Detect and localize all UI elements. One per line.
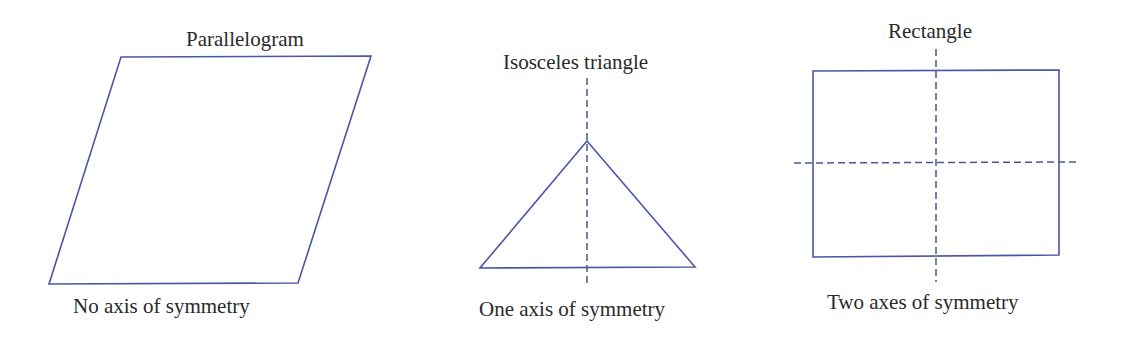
parallelogram-shape bbox=[49, 56, 371, 284]
parallelogram-title: Parallelogram bbox=[186, 27, 304, 51]
symmetry-diagram: Parallelogram No axis of symmetry Isosce… bbox=[0, 0, 1130, 345]
panel-isosceles-triangle: Isosceles triangle One axis of symmetry bbox=[479, 50, 695, 321]
triangle-caption: One axis of symmetry bbox=[479, 297, 666, 321]
panel-rectangle: Rectangle Two axes of symmetry bbox=[794, 19, 1078, 314]
panel-parallelogram: Parallelogram No axis of symmetry bbox=[49, 27, 371, 318]
diagram-svg: Parallelogram No axis of symmetry Isosce… bbox=[0, 0, 1130, 345]
rectangle-title: Rectangle bbox=[888, 19, 972, 43]
rectangle-caption: Two axes of symmetry bbox=[827, 290, 1019, 314]
triangle-title: Isosceles triangle bbox=[503, 50, 648, 74]
parallelogram-caption: No axis of symmetry bbox=[73, 294, 250, 318]
